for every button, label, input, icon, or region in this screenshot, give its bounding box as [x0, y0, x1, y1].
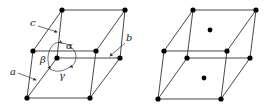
label-c: c: [30, 17, 36, 28]
atom: [253, 7, 258, 12]
crystal-diagram: α β γ c a b: [0, 0, 270, 111]
edge: [96, 10, 125, 51]
edge: [33, 10, 62, 51]
label-b: b: [126, 32, 132, 43]
atom: [87, 95, 92, 100]
atom: [184, 55, 189, 60]
label-gamma: γ: [59, 70, 65, 81]
atom: [59, 7, 64, 12]
label-a: a: [10, 66, 16, 77]
atom-origin: [54, 55, 59, 60]
label-beta: β: [39, 54, 46, 65]
atom: [117, 55, 122, 60]
atom: [247, 55, 252, 60]
unit-cell-left: α β γ c a b: [10, 7, 132, 100]
edge: [120, 10, 125, 58]
atom: [218, 96, 223, 101]
b-arrow: [110, 43, 125, 56]
atom-top-face-center: [208, 28, 213, 33]
atom: [30, 48, 35, 53]
atom: [155, 96, 160, 101]
label-alpha: α: [66, 40, 73, 51]
atom-bottom-face-center: [202, 76, 207, 81]
unit-cell-right: [155, 7, 258, 101]
atom: [122, 7, 127, 12]
atom: [161, 48, 166, 53]
atom: [24, 95, 29, 100]
alpha-arc-start: [52, 42, 62, 46]
atom: [224, 48, 229, 53]
atom: [93, 48, 98, 53]
a-arrow: [18, 73, 36, 80]
atom: [190, 7, 195, 12]
